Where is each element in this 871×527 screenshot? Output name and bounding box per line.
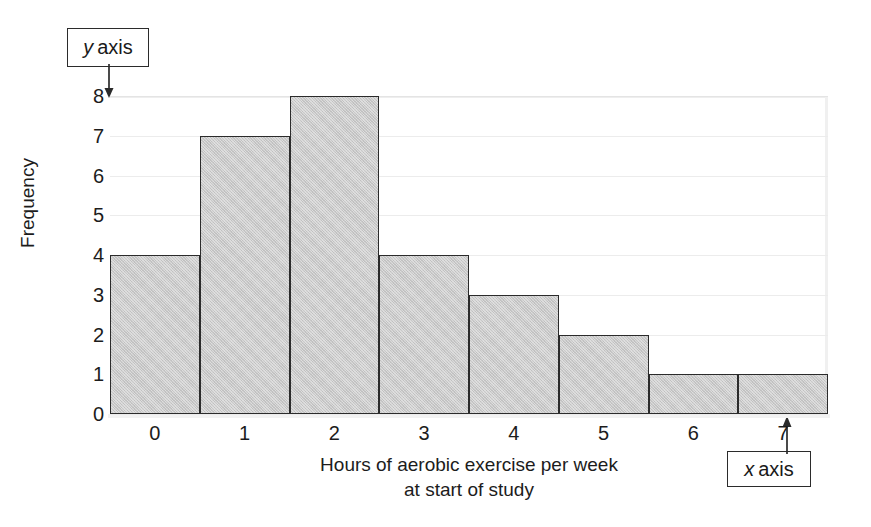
x-axis-tick-label: 7 (753, 422, 813, 444)
histogram-bar (290, 96, 380, 414)
y-axis-tick-labels: 012345678 (60, 96, 104, 414)
y-axis-tick-label: 1 (70, 364, 104, 384)
histogram-bar (649, 374, 739, 414)
histogram-bar (559, 335, 649, 415)
gridline (110, 96, 828, 97)
x-axis-tick-label: 5 (574, 422, 634, 444)
y-axis-tick-label: 0 (70, 404, 104, 424)
x-axis-tick-label: 3 (394, 422, 454, 444)
y-axis-callout-italic: y (83, 36, 97, 59)
y-axis-tick-label: 8 (70, 86, 104, 106)
y-axis-tick-label: 6 (70, 166, 104, 186)
x-axis-tick-label: 6 (663, 422, 723, 444)
histogram-bar (738, 374, 828, 414)
x-axis-tick-label: 4 (484, 422, 544, 444)
histogram-bar (200, 136, 290, 414)
histogram-bar (110, 255, 200, 414)
y-axis-callout-box: yaxis (67, 28, 149, 67)
x-axis-tick-label: 1 (215, 422, 275, 444)
x-axis-tick-label: 2 (304, 422, 364, 444)
x-axis-title: Hours of aerobic exercise per week at st… (110, 452, 828, 502)
x-axis-title-line1: Hours of aerobic exercise per week (320, 454, 618, 475)
x-axis-tick-labels: 01234567 (110, 422, 828, 450)
y-axis-callout-label: axis (97, 36, 133, 59)
y-axis-tick-label: 4 (70, 245, 104, 265)
y-axis-tick-label: 7 (70, 126, 104, 146)
y-axis-tick-label: 3 (70, 285, 104, 305)
y-axis-tick-label: 5 (70, 205, 104, 225)
x-axis-title-line2: at start of study (110, 477, 828, 502)
histogram-bar (379, 255, 469, 414)
plot-area (110, 96, 828, 414)
histogram-figure: yaxis xaxis Frequency 012345678 01234567… (0, 0, 871, 527)
gridline (110, 414, 828, 415)
x-axis-tick-label: 0 (125, 422, 185, 444)
histogram-bar (469, 295, 559, 414)
y-axis-title: Frequency (17, 133, 39, 273)
y-axis-tick-label: 2 (70, 325, 104, 345)
